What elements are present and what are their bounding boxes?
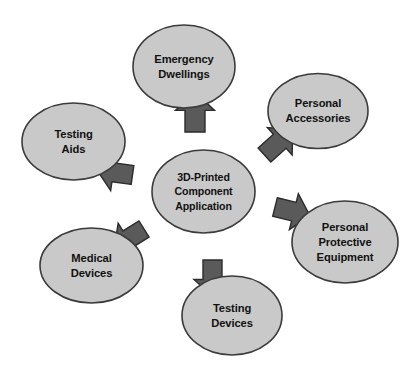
diagram-graphics: [0, 0, 413, 377]
personal-accessories-ellipse[interactable]: [268, 74, 368, 149]
testing-devices-ellipse[interactable]: [182, 276, 282, 355]
testing-aids-ellipse[interactable]: [22, 103, 125, 180]
personal-protective-equipment-ellipse[interactable]: [292, 201, 398, 283]
3d-printed-component-application-ellipse[interactable]: [152, 150, 255, 233]
medical-devices-ellipse[interactable]: [40, 228, 143, 303]
ellipse-layer: [22, 25, 398, 355]
diagram-canvas: EmergencyDwellingsPersonalAccessoriesPer…: [0, 0, 413, 377]
emergency-dwellings-ellipse[interactable]: [133, 25, 235, 108]
